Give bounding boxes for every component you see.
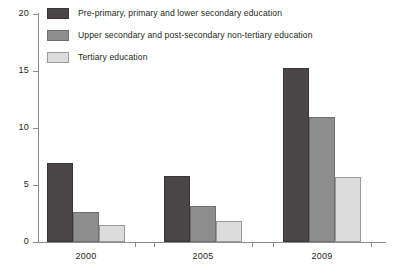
bar-2005-series-2 xyxy=(216,221,242,242)
legend-swatch-icon-series-0 xyxy=(47,8,69,19)
bar-2009-series-2 xyxy=(335,177,361,242)
y-axis-tick-label: 0 xyxy=(24,236,29,247)
bar-2000-series-0 xyxy=(47,163,73,242)
legend-label-series-1: Upper secondary and post-secondary non-t… xyxy=(78,29,313,41)
x-axis-label-2000: 2000 xyxy=(56,250,116,262)
plot-area xyxy=(38,14,386,242)
bar-2000-series-2 xyxy=(99,225,125,242)
bar-chart: 05101520 200020052009 Pre-primary, prima… xyxy=(0,0,396,271)
x-axis-tick xyxy=(135,242,136,247)
legend-swatch-icon-series-1 xyxy=(47,30,69,41)
legend-label-series-2: Tertiary education xyxy=(78,51,148,63)
x-axis-tick xyxy=(252,242,253,247)
x-axis-tick xyxy=(273,242,274,247)
x-axis-tick xyxy=(154,242,155,247)
y-axis-tick-label: 10 xyxy=(19,122,29,133)
bar-2009-series-1 xyxy=(309,117,335,242)
y-axis-tick-label: 20 xyxy=(19,8,29,19)
y-axis-tick: 0 xyxy=(33,242,39,243)
bar-2000-series-1 xyxy=(73,212,99,242)
bar-2005-series-0 xyxy=(164,176,190,242)
y-axis-tick-label: 15 xyxy=(19,65,29,76)
bar-2005-series-1 xyxy=(190,206,216,242)
x-axis-label-2005: 2005 xyxy=(173,250,233,262)
legend-label-series-0: Pre-primary, primary and lower secondary… xyxy=(78,7,282,19)
x-axis-label-2009: 2009 xyxy=(292,250,352,262)
bar-2009-series-0 xyxy=(283,68,309,242)
y-axis-tick-label: 5 xyxy=(24,179,29,190)
x-axis-tick xyxy=(371,242,372,247)
x-axis-line xyxy=(38,242,386,243)
legend-swatch-icon-series-2 xyxy=(47,52,69,63)
